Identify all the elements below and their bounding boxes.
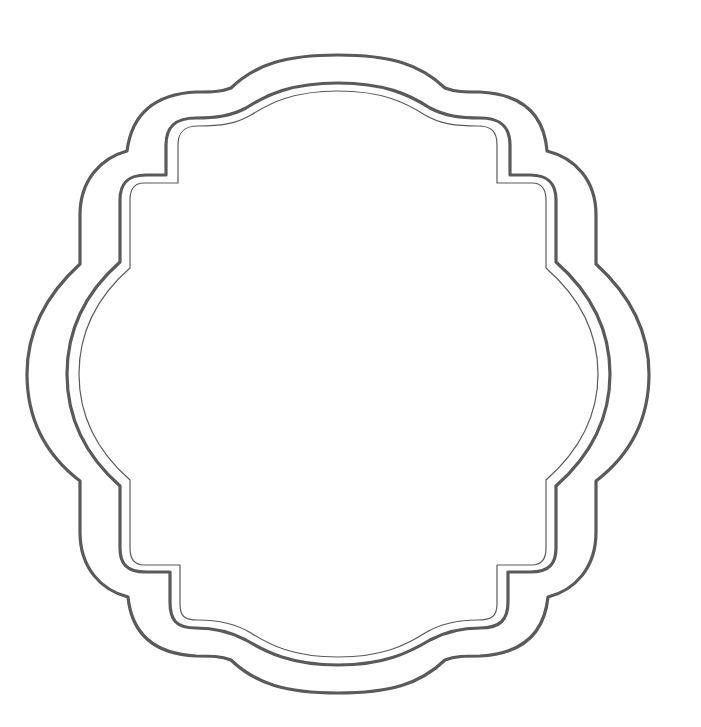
- middle-border: [67, 83, 610, 665]
- outer-border: [27, 55, 649, 693]
- scalloped-frame-icon: [0, 0, 701, 727]
